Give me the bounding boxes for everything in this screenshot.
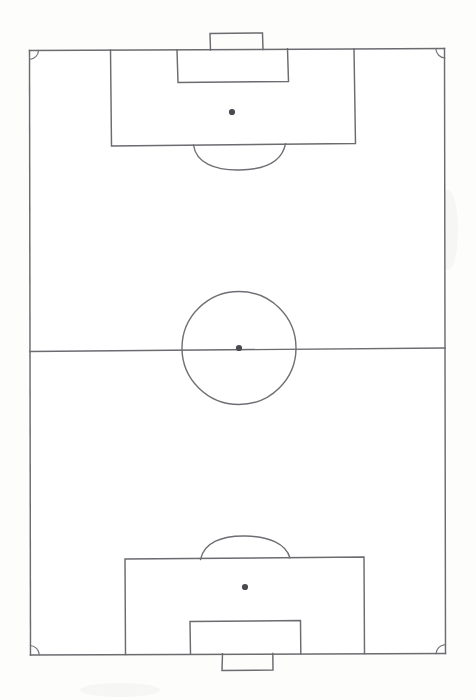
top-penalty-spot bbox=[229, 109, 235, 115]
pitch-diagram-canvas bbox=[0, 0, 476, 700]
paper-smudge bbox=[80, 683, 160, 697]
touchline-left bbox=[30, 51, 31, 656]
bottom-penalty-spot bbox=[242, 584, 248, 590]
pitch-diagram-figure: Football Pitch Diagram bbox=[0, 0, 476, 700]
centre-spot bbox=[236, 345, 242, 351]
touchline-right bbox=[445, 49, 446, 654]
